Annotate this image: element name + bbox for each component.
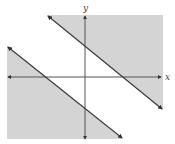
x-axis-label: x xyxy=(165,72,170,82)
inequality-graph: y x xyxy=(0,0,175,144)
y-axis-label: y xyxy=(82,3,89,13)
